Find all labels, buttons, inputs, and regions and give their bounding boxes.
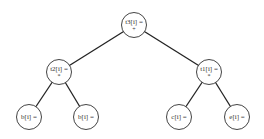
- node-label: c[i] =: [171, 113, 186, 121]
- node-c: c[i] =: [166, 104, 192, 130]
- node-operator: +: [132, 26, 135, 32]
- node-t2: t2[i] = *: [46, 59, 72, 85]
- node-b-right: b[i] =: [73, 104, 99, 130]
- node-t1: t1[i] = *: [196, 59, 222, 85]
- node-label: e[i] =: [229, 113, 244, 121]
- node-b-left: b[i] =: [16, 104, 42, 130]
- node-label: t2[i] =: [50, 65, 68, 73]
- node-root: t3[i] = +: [121, 12, 147, 38]
- node-label: b[i] =: [78, 113, 94, 121]
- node-operator: *: [58, 73, 61, 79]
- node-label: t3[i] =: [125, 18, 143, 26]
- node-operator: *: [208, 73, 211, 79]
- node-label: t1[i] =: [200, 65, 218, 73]
- node-e: e[i] =: [224, 104, 250, 130]
- node-label: b[i] =: [21, 113, 37, 121]
